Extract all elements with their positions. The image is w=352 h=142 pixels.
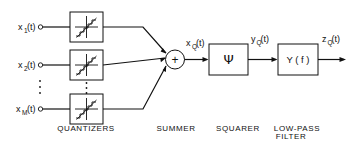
input-label-1-base: x (18, 22, 23, 32)
caption-quantizers: QUANTIZERS (57, 124, 115, 133)
transfer-function-symbol: Y ( f ) (286, 54, 309, 65)
input-label-1: x 1 (t) (18, 22, 36, 34)
signal-xq-arg: (t) (196, 38, 205, 48)
signal-yq-arg: (t) (261, 34, 270, 44)
arrowhead-filter-in (272, 57, 278, 62)
caption-lowpass-line2: FILTER (276, 132, 307, 141)
signal-label-filter-out: z Q (t) (322, 34, 340, 47)
signal-xq-base: x (186, 38, 191, 48)
wire-q2-to-summer (103, 58, 165, 65)
quantizer-block-1[interactable] (70, 12, 103, 42)
input-terminal-2[interactable] (38, 63, 42, 67)
diagram-canvas: + Ψ Y ( f ) x 1 (t) x 2 (t) (0, 0, 352, 142)
input-terminal-1[interactable] (38, 25, 42, 29)
input-label-2-base: x (18, 60, 23, 70)
summer-plus-symbol: + (171, 53, 178, 67)
ellipsis-quantizers (86, 82, 88, 94)
signal-yq-base: y (251, 34, 256, 44)
caption-summer: SUMMER (156, 124, 195, 133)
signal-label-summer-out: x Q (t) (186, 38, 205, 51)
input-label-m-arg: (t) (27, 104, 36, 114)
quantizer-block-m[interactable] (70, 94, 103, 124)
signal-zq-base: z (322, 34, 327, 44)
input-terminal-m[interactable] (38, 107, 42, 111)
block-diagram-figure: + Ψ Y ( f ) x 1 (t) x 2 (t) (0, 0, 352, 142)
input-label-2: x 2 (t) (18, 60, 36, 72)
arrowhead-q1 (161, 48, 166, 54)
caption-squarer: SQUARER (216, 124, 260, 133)
arrowhead-squarer-in (203, 57, 209, 62)
input-label-2-arg: (t) (27, 60, 36, 70)
psi-symbol: Ψ (223, 52, 233, 67)
summer-block[interactable]: + (166, 50, 185, 69)
input-label-m-base: x (16, 104, 21, 114)
input-label-1-arg: (t) (27, 22, 36, 32)
lowpass-filter-block[interactable]: Y ( f ) (278, 44, 318, 75)
quantizer-block-2[interactable] (70, 50, 103, 80)
input-label-m: x M (t) (16, 104, 36, 116)
signal-zq-arg: (t) (332, 34, 341, 44)
ellipsis-inputs (39, 80, 41, 94)
wire-qm-to-summer (103, 66, 166, 109)
signal-label-squarer-out: y Q (t) (251, 34, 269, 47)
squarer-block[interactable]: Ψ (209, 44, 248, 75)
wire-q1-to-summer (103, 27, 166, 53)
arrowhead-output (340, 57, 347, 62)
